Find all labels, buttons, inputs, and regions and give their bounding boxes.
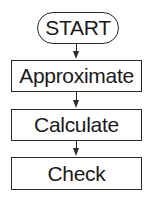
start-node: START <box>37 12 119 44</box>
check-label: Check <box>47 162 105 186</box>
arrowhead-icon <box>73 148 79 156</box>
calculate-label: Calculate <box>34 113 119 137</box>
approximate-label: Approximate <box>19 64 134 88</box>
arrowhead-icon <box>73 51 79 59</box>
calculate-node: Calculate <box>11 109 142 141</box>
approximate-node: Approximate <box>11 60 142 92</box>
arrowhead-icon <box>73 100 79 108</box>
start-label: START <box>45 16 110 40</box>
check-node: Check <box>11 157 142 190</box>
